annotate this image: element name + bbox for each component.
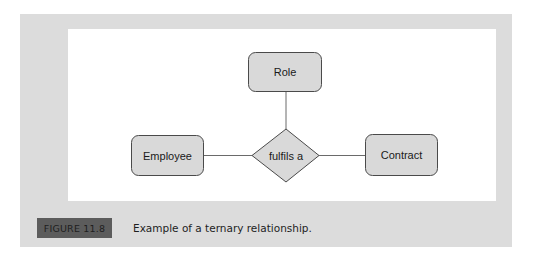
entity-role[interactable]: Role <box>249 53 322 92</box>
entity-contract-label: Contract <box>381 149 423 161</box>
relationship-fulfils-label: fulfils a <box>269 150 304 162</box>
entity-employee-label: Employee <box>143 150 192 162</box>
entity-contract[interactable]: Contract <box>366 135 438 176</box>
entity-role-label: Role <box>274 66 297 78</box>
entity-employee[interactable]: Employee <box>132 136 204 176</box>
figure-number-label: FIGURE 11.8 <box>37 218 112 238</box>
relationship-fulfils[interactable]: fulfils a <box>252 129 319 182</box>
figure-caption: Example of a ternary relationship. <box>133 220 312 236</box>
